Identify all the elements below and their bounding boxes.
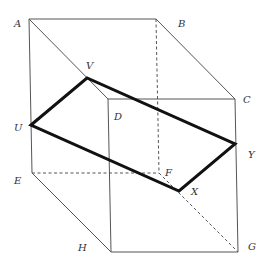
label-a: A xyxy=(13,18,21,29)
label-f: F xyxy=(164,167,173,178)
hidden-edge-fg xyxy=(159,173,238,252)
label-d: D xyxy=(113,111,122,122)
edge-ae xyxy=(29,19,32,173)
cross-section-polygon xyxy=(31,78,235,191)
label-b: B xyxy=(177,18,185,29)
edge-eh xyxy=(32,173,111,252)
edge-dh xyxy=(108,99,111,252)
label-x: X xyxy=(190,186,199,197)
label-g: G xyxy=(248,241,256,252)
hidden-edge-bf xyxy=(156,19,159,173)
label-y: Y xyxy=(248,149,256,160)
visible-edges xyxy=(29,19,238,252)
label-v: V xyxy=(86,60,95,71)
edge-cg xyxy=(235,99,238,252)
label-u: U xyxy=(14,122,23,133)
edge-bc xyxy=(156,19,235,99)
cross-section-uvyx xyxy=(31,78,235,191)
edge-ad xyxy=(29,19,108,99)
label-h: H xyxy=(77,242,87,253)
label-e: E xyxy=(13,175,22,186)
cuboid-diagram: A B C D E F G H U V X Y xyxy=(0,0,265,267)
label-c: C xyxy=(243,94,251,105)
